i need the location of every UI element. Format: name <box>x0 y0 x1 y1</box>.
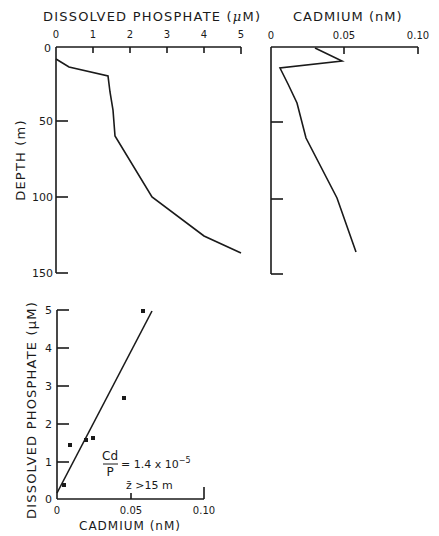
cd-tick-010: 0.10 <box>407 30 429 41</box>
bottom-y-axis-label: DISSOLVED PHOSPHATE (μM) <box>24 301 39 519</box>
data-point <box>91 436 95 440</box>
cadmium-axis-title: CADMIUM (nM) <box>293 9 403 24</box>
phosphate-depth-plot <box>56 47 241 273</box>
ratio-numerator: Cd <box>102 449 118 463</box>
ratio-denominator: P <box>106 465 113 479</box>
data-point <box>62 483 66 487</box>
depth-condition: z̄ >15 m <box>126 479 173 492</box>
depth-tick-50: 50 <box>39 115 53 128</box>
phosphate-profile-line <box>56 59 241 253</box>
p-tick-3: 3 <box>164 29 170 40</box>
phosphate-plot-labels: DISSOLVED PHOSPHATE (μM) 0 1 2 3 4 5 0 5… <box>13 9 261 280</box>
cadmium-depth-plot <box>271 47 418 274</box>
b-ytick-4: 4 <box>45 342 52 355</box>
b-xtick-005: 0.05 <box>120 505 142 516</box>
depth-tick-100: 100 <box>32 191 53 204</box>
data-point <box>84 438 88 442</box>
p-tick-1: 1 <box>90 29 96 40</box>
data-point <box>141 309 145 313</box>
depth-tick-150: 150 <box>32 267 53 280</box>
phosphate-axis-title: DISSOLVED PHOSPHATE ( <box>43 9 233 24</box>
b-xtick-0: 0 <box>54 505 60 516</box>
b-ytick-3: 3 <box>45 380 52 393</box>
cadmium-plot-labels: CADMIUM (nM) 0 0.05 0.10 <box>268 9 429 41</box>
p-tick-0: 0 <box>53 29 59 40</box>
svg-text:DISSOLVED PHOSPHATE (μM): DISSOLVED PHOSPHATE (μM) <box>43 9 261 24</box>
figure: DISSOLVED PHOSPHATE (μM) 0 1 2 3 4 5 0 5… <box>0 0 439 536</box>
data-point <box>122 396 126 400</box>
b-ytick-0: 0 <box>45 493 52 506</box>
b-ytick-5: 5 <box>45 304 52 317</box>
bottom-x-axis-label: CADMIUM (nM) <box>79 519 181 533</box>
p-tick-5: 5 <box>238 29 244 40</box>
cd-tick-0: 0 <box>268 30 274 41</box>
p-tick-4: 4 <box>201 29 207 40</box>
p-tick-2: 2 <box>127 29 133 40</box>
cadmium-profile-line <box>280 48 356 252</box>
depth-axis-label: DEPTH (m) <box>13 119 28 201</box>
cd-tick-005: 0.05 <box>333 30 355 41</box>
ratio-value: = 1.4 x 10−5 <box>121 456 191 471</box>
b-ytick-1: 1 <box>45 456 52 469</box>
depth-tick-0: 0 <box>44 42 51 55</box>
b-ytick-2: 2 <box>45 418 52 431</box>
b-xtick-010: 0.10 <box>193 505 215 516</box>
data-point <box>68 443 72 447</box>
